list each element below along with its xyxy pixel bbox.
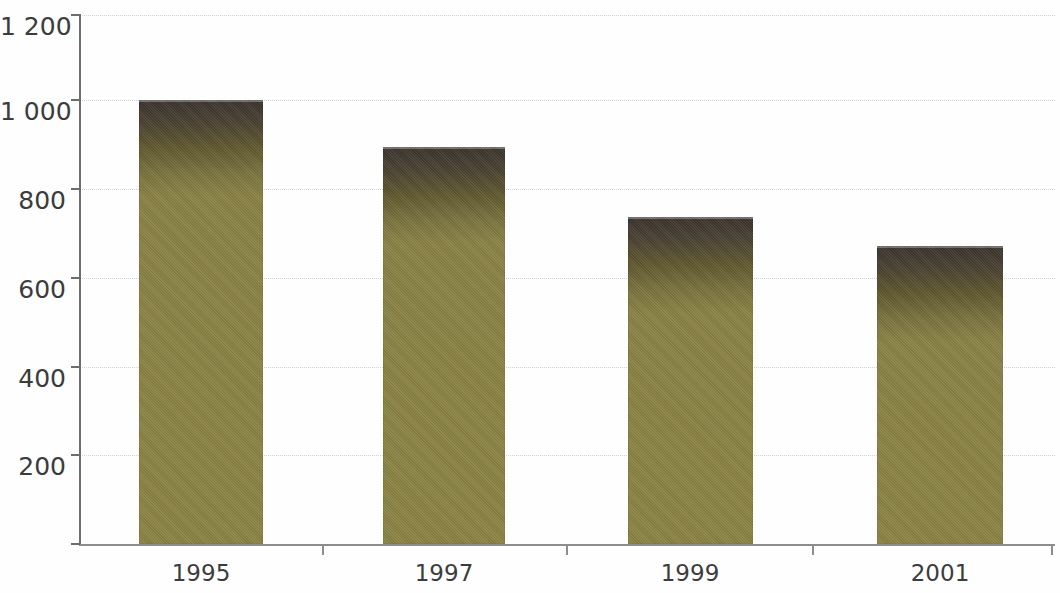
y-tick-label-400: 400 bbox=[0, 366, 66, 391]
x-tick-label-1999: 1999 bbox=[661, 562, 720, 585]
bar-chart: 1 200 1 000 800 600 400 200 1995 1997 19… bbox=[0, 0, 1060, 593]
bar-top-edge-1997 bbox=[383, 147, 505, 149]
plot-area bbox=[80, 15, 1055, 544]
x-tick-label-2001: 2001 bbox=[911, 562, 970, 585]
bar-top-edge-1995 bbox=[139, 100, 263, 102]
x-tick-separator-4 bbox=[1051, 546, 1053, 555]
x-tick-label-1995: 1995 bbox=[172, 562, 231, 585]
y-tick-label-1200: 1 200 bbox=[0, 14, 66, 39]
y-tick-0 bbox=[71, 543, 80, 545]
y-tick-label-800: 800 bbox=[0, 188, 66, 213]
x-tick-separator-3 bbox=[812, 546, 814, 555]
x-tick-separator-2 bbox=[566, 546, 568, 555]
bar-top-edge-2001 bbox=[877, 246, 1003, 248]
y-axis-line bbox=[79, 14, 81, 545]
y-tick-label-1000: 1 000 bbox=[0, 99, 66, 124]
x-tick-separator-1 bbox=[322, 546, 324, 555]
bar-1997[interactable] bbox=[383, 147, 505, 544]
y-tick-1000 bbox=[71, 99, 80, 101]
y-tick-600 bbox=[71, 277, 80, 279]
y-tick-label-600: 600 bbox=[0, 277, 66, 302]
bar-1999[interactable] bbox=[628, 217, 753, 544]
x-tick-label-1997: 1997 bbox=[415, 562, 474, 585]
gridline-1200 bbox=[80, 15, 1055, 17]
y-tick-200 bbox=[71, 454, 80, 456]
y-tick-1200 bbox=[71, 14, 80, 16]
bar-top-edge-1999 bbox=[628, 217, 753, 219]
bar-2001[interactable] bbox=[877, 246, 1003, 544]
bar-1995[interactable] bbox=[139, 100, 263, 544]
y-tick-400 bbox=[71, 366, 80, 368]
y-tick-800 bbox=[71, 188, 80, 190]
y-tick-label-200: 200 bbox=[0, 454, 66, 479]
